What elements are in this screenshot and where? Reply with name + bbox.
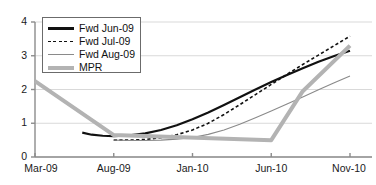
y-tick-label: 4 (9, 15, 27, 27)
legend-label: MPR (79, 62, 102, 73)
x-tick-label: Aug-09 (87, 162, 141, 174)
forward-rate-chart: 01234 Mar-09Aug-09Jan-10Jun-10Nov-10 Fwd… (0, 0, 376, 185)
series-line-fwd-aug-09 (114, 76, 350, 140)
legend-item-mpr[interactable]: MPR (48, 61, 102, 74)
legend-label: Fwd Jun-09 (79, 23, 134, 34)
legend-line-sample-icon (48, 62, 74, 73)
y-tick-label: 1 (9, 116, 27, 128)
y-tick-label: 2 (9, 83, 27, 95)
series-line-fwd-jul-09 (114, 36, 350, 140)
legend-line-sample-icon (48, 36, 74, 47)
legend-label: Fwd Jul-09 (79, 36, 130, 47)
legend-line-sample-icon (48, 49, 74, 60)
x-tick-label: Jan-10 (166, 162, 220, 174)
y-tick-label: 3 (9, 49, 27, 61)
legend-item-fwd-aug-09[interactable]: Fwd Aug-09 (48, 48, 135, 61)
chart-legend: Fwd Jun-09Fwd Jul-09Fwd Aug-09MPR (42, 17, 141, 73)
legend-label: Fwd Aug-09 (79, 49, 135, 60)
y-tick-label: 0 (9, 150, 27, 162)
legend-item-fwd-jul-09[interactable]: Fwd Jul-09 (48, 35, 130, 48)
x-tick-label: Jun-10 (244, 162, 298, 174)
legend-line-sample-icon (48, 23, 74, 34)
x-tick-label: Mar-09 (14, 162, 68, 174)
x-tick-label: Nov-10 (322, 162, 376, 174)
legend-item-fwd-jun-09[interactable]: Fwd Jun-09 (48, 22, 134, 35)
